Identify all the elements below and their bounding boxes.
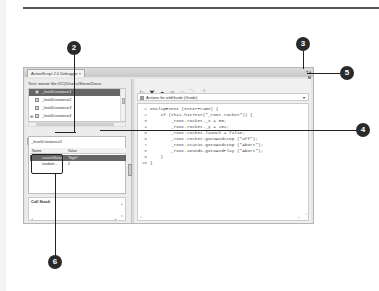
movie-path-label: Test: movie file:///C|/Users/Steve/Docu xyxy=(28,81,101,86)
left-pane: Test: movie file:///C|/Users/Steve/Docu … xyxy=(26,79,131,223)
debugger-window: ActionScript 2.0 Debugger × ▾ ▴ Test: mo… xyxy=(23,67,314,224)
debug-toolbar: ▷✕●■⤼⤵⤴ xyxy=(138,81,208,91)
movieclip-icon xyxy=(35,98,39,102)
callout-line-3 xyxy=(303,51,304,69)
tree-item[interactable]: _level0.instance3 xyxy=(29,105,121,112)
tree-item[interactable]: _level0.instance1 xyxy=(29,89,121,96)
chevron-down-icon[interactable]: ▾ xyxy=(303,94,305,101)
script-icon xyxy=(140,96,144,100)
script-selector[interactable]: Actions for wfdGuide (Guide) ▾ xyxy=(137,93,309,101)
callout-5: 5 xyxy=(340,66,354,80)
splitter-collapse-handle[interactable] xyxy=(128,164,132,176)
callout-4: 4 xyxy=(356,123,370,137)
code-view[interactable]: 1onClipEvent (enterFrame) { 2 if (this.h… xyxy=(137,103,309,221)
scroll-down-icon[interactable]: ▾ xyxy=(305,212,307,216)
scroll-right-icon[interactable]: ▸ xyxy=(298,215,300,219)
callout-3: 3 xyxy=(296,37,310,51)
tree-horizontal-scrollbar[interactable] xyxy=(28,122,126,127)
scroll-right-icon[interactable]: ▸ xyxy=(115,217,117,221)
page-edge xyxy=(0,0,6,291)
scroll-down-icon[interactable]: ▾ xyxy=(121,214,123,218)
scroll-thumb[interactable] xyxy=(122,98,125,104)
call-stack-label: Call Stack xyxy=(31,199,50,204)
panel-tab[interactable]: ActionScript 2.0 Debugger × xyxy=(27,69,85,77)
tree-item[interactable]: _level0.instance2 xyxy=(29,97,121,104)
title-bar: ActionScript 2.0 Debugger × ▾ ▴ xyxy=(24,68,313,77)
callout-line-4 xyxy=(100,130,358,131)
call-stack-panel: Call Stack ▴ ▾ ◂ ▸ xyxy=(28,197,126,221)
top-rule xyxy=(23,7,379,9)
callout-line-6 xyxy=(55,174,56,256)
callout-line-5 xyxy=(307,73,340,74)
scroll-up-icon[interactable]: ▴ xyxy=(121,202,123,206)
instance-label: _level0.instance2 xyxy=(31,139,62,144)
callout-6: 6 xyxy=(48,255,62,269)
tree-vertical-scrollbar[interactable] xyxy=(120,89,125,121)
scroll-left-icon[interactable]: ◂ xyxy=(31,217,33,221)
movieclip-icon xyxy=(35,114,39,118)
callout-line-2-bracket xyxy=(55,132,76,133)
value-column-header[interactable]: Value xyxy=(68,148,77,154)
display-list-tree: _level0.instance1 _level0.instance2 _lev… xyxy=(28,88,126,122)
movieclip-icon xyxy=(35,90,39,94)
code-pane: ▷✕●■⤼⤵⤴ Actions for wfdGuide (Guide) ▾ 1… xyxy=(135,79,311,223)
expand-icon[interactable]: ⊞ xyxy=(30,113,33,120)
variables-highlight-box xyxy=(31,154,63,174)
callout-line-2 xyxy=(74,55,75,132)
callout-2: 2 xyxy=(67,41,81,55)
scroll-left-icon[interactable]: ◂ xyxy=(140,215,142,219)
tree-item[interactable]: ⊞_level0.instance4 xyxy=(29,113,121,120)
movieclip-icon xyxy=(35,106,39,110)
pane-splitter[interactable] xyxy=(131,79,134,223)
code-line: 10} xyxy=(138,160,153,166)
scroll-thumb[interactable] xyxy=(36,123,114,126)
